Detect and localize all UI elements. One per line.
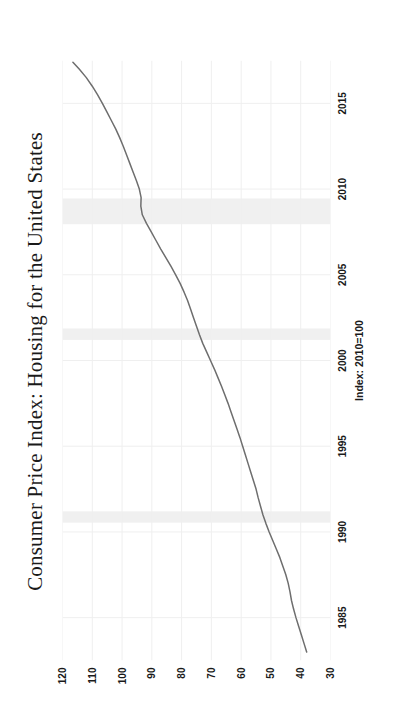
y-axis-tick-label: 60 — [235, 667, 246, 678]
y-axis-tick-label: 90 — [146, 667, 157, 678]
y-axis-tick-label: 110 — [86, 667, 97, 683]
x-axis-tick-label: 2010 — [336, 177, 347, 199]
y-axis-tick-label: 70 — [205, 667, 216, 678]
recession-band — [62, 328, 330, 339]
y-axis-tick-label: 80 — [176, 667, 187, 678]
y-axis-tick-label: 50 — [265, 667, 276, 678]
chart-title: Consumer Price Index: Housing for the Un… — [22, 0, 47, 722]
x-axis-tick-label: 2015 — [336, 92, 347, 114]
y-axis-tick-label: 120 — [57, 667, 68, 684]
chart-page: Consumer Price Index: Housing for the Un… — [0, 0, 397, 722]
recession-band — [62, 511, 330, 522]
chart-figure: Consumer Price Index: Housing for the Un… — [0, 0, 397, 722]
x-axis-tick-label: 1985 — [336, 606, 347, 628]
y-axis-units-label: Index: 2010=100 — [352, 60, 364, 660]
x-axis-tick-label: 2005 — [336, 263, 347, 285]
chart-plot-svg — [62, 60, 330, 660]
x-axis-tick-label: 2000 — [336, 349, 347, 371]
recession-band — [62, 198, 330, 224]
y-axis-tick-label: 40 — [295, 667, 306, 678]
plot-area: 30405060708090100110120 1985199019952000… — [62, 60, 330, 660]
y-axis-tick-label: 100 — [116, 667, 127, 684]
x-axis-tick-label: 1995 — [336, 435, 347, 457]
x-axis-tick-label: 1990 — [336, 520, 347, 542]
rotated-figure-container: Consumer Price Index: Housing for the Un… — [0, 0, 397, 722]
y-axis-tick-label: 30 — [325, 667, 336, 678]
grid-lines — [62, 60, 330, 660]
